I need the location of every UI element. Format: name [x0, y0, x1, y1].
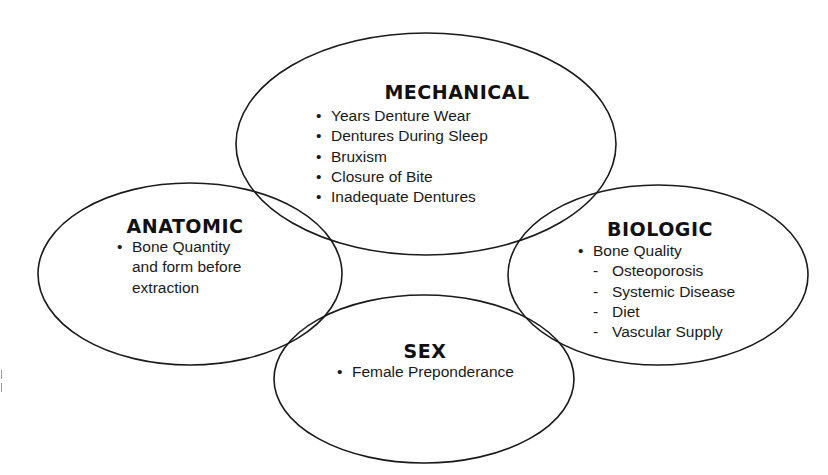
biologic-list: •Bone Quality -Osteoporosis -Systemic Di…	[576, 241, 735, 342]
venn-diagram: MECHANICAL •Years Denture Wear •Dentures…	[0, 0, 828, 475]
bullet-icon: •	[316, 126, 321, 146]
bullet-icon: •	[578, 241, 583, 261]
list-item: extraction	[115, 278, 241, 298]
biologic-title: BIOLOGIC	[607, 220, 713, 239]
dash-icon: -	[593, 261, 598, 281]
list-item: -Systemic Disease	[576, 282, 735, 302]
edge-artifact	[1, 383, 2, 392]
sex-title: SEX	[404, 342, 447, 361]
bullet-icon: •	[316, 106, 321, 126]
list-item: •Bone Quality	[576, 241, 735, 261]
list-item: -Osteoporosis	[576, 261, 735, 281]
edge-artifact	[1, 370, 2, 379]
list-item: -Diet	[576, 302, 735, 322]
bullet-icon: •	[117, 237, 122, 257]
dash-icon: -	[593, 282, 598, 302]
list-item: •Years Denture Wear	[314, 106, 488, 126]
bullet-icon: •	[316, 147, 321, 167]
bullet-icon: •	[316, 167, 321, 187]
bullet-icon: •	[316, 187, 321, 207]
bullet-icon: •	[337, 362, 342, 382]
dash-icon: -	[593, 302, 598, 322]
list-item: •Dentures During Sleep	[314, 126, 488, 146]
dash-icon: -	[593, 322, 598, 342]
anatomic-title: ANATOMIC	[127, 217, 244, 236]
mechanical-title: MECHANICAL	[384, 83, 529, 102]
anatomic-list: •Bone Quantity and form before extractio…	[115, 237, 241, 298]
list-item: •Bruxism	[314, 147, 488, 167]
list-item: •Female Preponderance	[335, 362, 514, 382]
list-item: -Vascular Supply	[576, 322, 735, 342]
list-item: and form before	[115, 257, 241, 277]
list-item: •Inadequate Dentures	[314, 187, 488, 207]
sex-list: •Female Preponderance	[335, 362, 514, 382]
list-item: •Bone Quantity	[115, 237, 241, 257]
mechanical-list: •Years Denture Wear •Dentures During Sle…	[314, 106, 488, 207]
list-item: •Closure of Bite	[314, 167, 488, 187]
